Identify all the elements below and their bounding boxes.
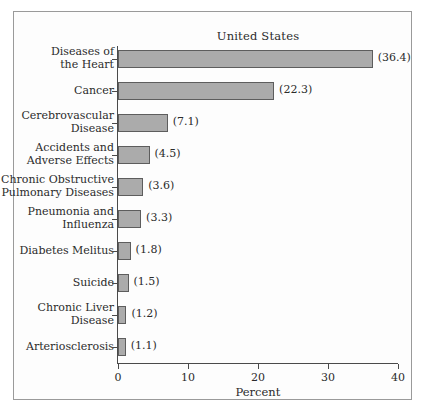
category-label: Cerebrovascular Disease (0, 110, 114, 135)
x-axis-tick-label: 10 (173, 371, 203, 384)
chart-page: United States (36.4)(22.3)(7.1)(4.5)(3.6… (0, 0, 427, 415)
bar[interactable] (118, 114, 168, 132)
bar-value-label: (22.3) (279, 83, 312, 96)
x-axis-title: Percent (118, 385, 398, 399)
bar[interactable] (118, 146, 150, 164)
category-label: Chronic Liver Disease (0, 302, 114, 327)
y-axis-tick (112, 59, 118, 60)
x-axis-tick-label: 0 (103, 371, 133, 384)
category-label: Cancer (0, 85, 114, 98)
bar-value-label: (4.5) (155, 147, 181, 160)
chart-title: United States (118, 29, 398, 43)
bar[interactable] (118, 306, 126, 324)
category-label: Arteriosclerosis (0, 341, 114, 354)
bar-row: (1.5) (118, 272, 398, 304)
category-label: Chronic Obstructive Pulmonary Diseases (0, 174, 114, 199)
bar[interactable] (118, 50, 373, 68)
bar[interactable] (118, 274, 129, 292)
category-label: Pneumonia and Influenza (0, 206, 114, 231)
bar-value-label: (1.1) (131, 339, 157, 352)
x-axis-tick (188, 364, 189, 369)
category-label: Accidents and Adverse Effects (0, 142, 114, 167)
x-axis-tick-label: 30 (313, 371, 343, 384)
x-axis-tick (258, 364, 259, 369)
category-label: Suicide (0, 277, 114, 290)
bar[interactable] (118, 178, 143, 196)
bar-value-label: (1.2) (131, 307, 157, 320)
bar-row: (3.6) (118, 176, 398, 208)
y-axis-tick (112, 347, 118, 348)
x-axis-tick-label: 20 (243, 371, 273, 384)
x-axis-tick-label: 40 (383, 371, 413, 384)
y-axis-tick (112, 123, 118, 124)
y-axis-tick (112, 283, 118, 284)
category-label: Diabetes Melitus (0, 245, 114, 258)
bar-row: (1.2) (118, 304, 398, 336)
bar[interactable] (118, 210, 141, 228)
bar[interactable] (118, 242, 131, 260)
bar-value-label: (36.4) (378, 51, 411, 64)
bar-value-label: (3.3) (146, 211, 172, 224)
y-axis-tick (112, 315, 118, 316)
bar-row: (36.4) (118, 48, 398, 80)
y-axis-tick (112, 251, 118, 252)
bar-value-label: (7.1) (173, 115, 199, 128)
bar-value-label: (1.8) (136, 243, 162, 256)
bar-row: (22.3) (118, 80, 398, 112)
x-axis-tick (328, 364, 329, 369)
bar-row: (4.5) (118, 144, 398, 176)
bar[interactable] (118, 338, 126, 356)
x-axis-tick (118, 364, 119, 369)
bar-row: (3.3) (118, 208, 398, 240)
y-axis-tick (112, 155, 118, 156)
y-axis-tick (112, 219, 118, 220)
bar[interactable] (118, 82, 274, 100)
y-axis-tick (112, 187, 118, 188)
bar-row: (7.1) (118, 112, 398, 144)
y-axis-tick (112, 91, 118, 92)
bar-row: (1.8) (118, 240, 398, 272)
bar-value-label: (1.5) (134, 275, 160, 288)
x-axis-tick (398, 364, 399, 369)
category-label: Diseases of the Heart (0, 46, 114, 71)
bar-value-label: (3.6) (148, 179, 174, 192)
